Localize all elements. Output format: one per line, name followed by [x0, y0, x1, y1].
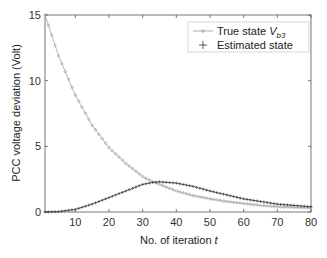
x-axis-label: No. of iteration t [140, 234, 219, 246]
y-axis-label: PCC voltage deviation (Volt) [10, 44, 22, 182]
x-tick-label: 70 [271, 216, 283, 228]
y-tick-label: 0 [35, 206, 41, 218]
x-tick-label: 10 [69, 216, 81, 228]
x-tick-label: 80 [305, 216, 317, 228]
y-tick-label: 10 [29, 75, 41, 87]
legend: True state Vb3 Estimated state [188, 22, 309, 52]
line-chart: 1020304050607080051015 True state Vb3 Es… [0, 0, 327, 258]
series-estimated-state [44, 180, 313, 213]
x-tick-label: 50 [204, 216, 216, 228]
y-tick-label: 15 [29, 9, 41, 21]
y-tick-label: 5 [35, 140, 41, 152]
x-tick-label: 30 [137, 216, 149, 228]
x-tick-label: 40 [170, 216, 182, 228]
x-tick-label: 20 [103, 216, 115, 228]
legend-estimated-label: Estimated state [217, 39, 293, 51]
x-tick-label: 60 [238, 216, 250, 228]
